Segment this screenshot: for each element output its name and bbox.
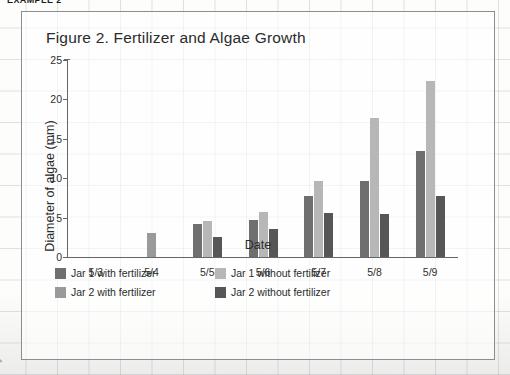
bar-group: 5/8 [347,60,403,257]
bar [193,224,202,257]
x-axis-title: Date [245,238,271,252]
bar-group: 5/3 [68,60,124,257]
bar-group: 5/6 [235,60,291,257]
bar [370,118,379,257]
legend-label: Jar 1 with fertilizer [71,267,156,279]
legend-item: Jar 1 without fertilizer [215,267,390,279]
plot-area: 0510152025 5/35/45/55/65/75/85/9 [67,60,458,258]
legend-color-swatch [215,268,226,279]
bar-group: 5/4 [124,60,180,257]
y-axis-tick-label: 10 [50,172,62,184]
legend-color-swatch [55,287,66,298]
legend-item: Jar 1 with fertilizer [55,267,205,279]
bar [203,221,212,257]
example-label: EXAMPLE 2 [7,0,62,5]
legend-item: Jar 2 with fertilizer [55,286,205,298]
y-axis-tick-label: 0 [56,251,62,263]
bar [380,214,389,257]
bar-groups: 5/35/45/55/65/75/85/9 [68,60,458,257]
legend-color-swatch [215,287,226,298]
figure-card: Figure 2. Fertilizer and Algae Growth Di… [21,11,495,360]
bar [436,196,445,257]
bar [304,196,313,257]
chart-legend: Jar 1 with fertilizerJar 1 without ferti… [55,267,410,298]
figure-title: Figure 2. Fertilizer and Algae Growth [46,29,306,47]
bar [360,181,369,257]
bar [416,151,425,257]
legend-item: Jar 2 without fertilizer [215,286,390,298]
bar [426,81,435,258]
bar [324,213,333,257]
legend-label: Jar 2 without fertilizer [231,286,330,298]
bar [213,237,222,257]
y-axis-tick-label: 20 [50,93,62,105]
bar-group: 5/5 [179,60,235,257]
legend-label: Jar 2 with fertilizer [71,286,156,298]
x-axis-tick-label: 5/9 [423,266,438,278]
legend-color-swatch [55,268,66,279]
legend-label: Jar 1 without fertilizer [231,267,330,279]
bar-group: 5/7 [291,60,347,257]
bar [147,233,156,257]
bar-group: 5/9 [402,60,458,257]
y-axis-tick [63,257,68,258]
bar [314,181,323,257]
y-axis-tick-label: 5 [56,212,62,224]
y-axis-tick-label: 25 [50,54,62,66]
y-axis-tick-label: 15 [50,133,62,145]
